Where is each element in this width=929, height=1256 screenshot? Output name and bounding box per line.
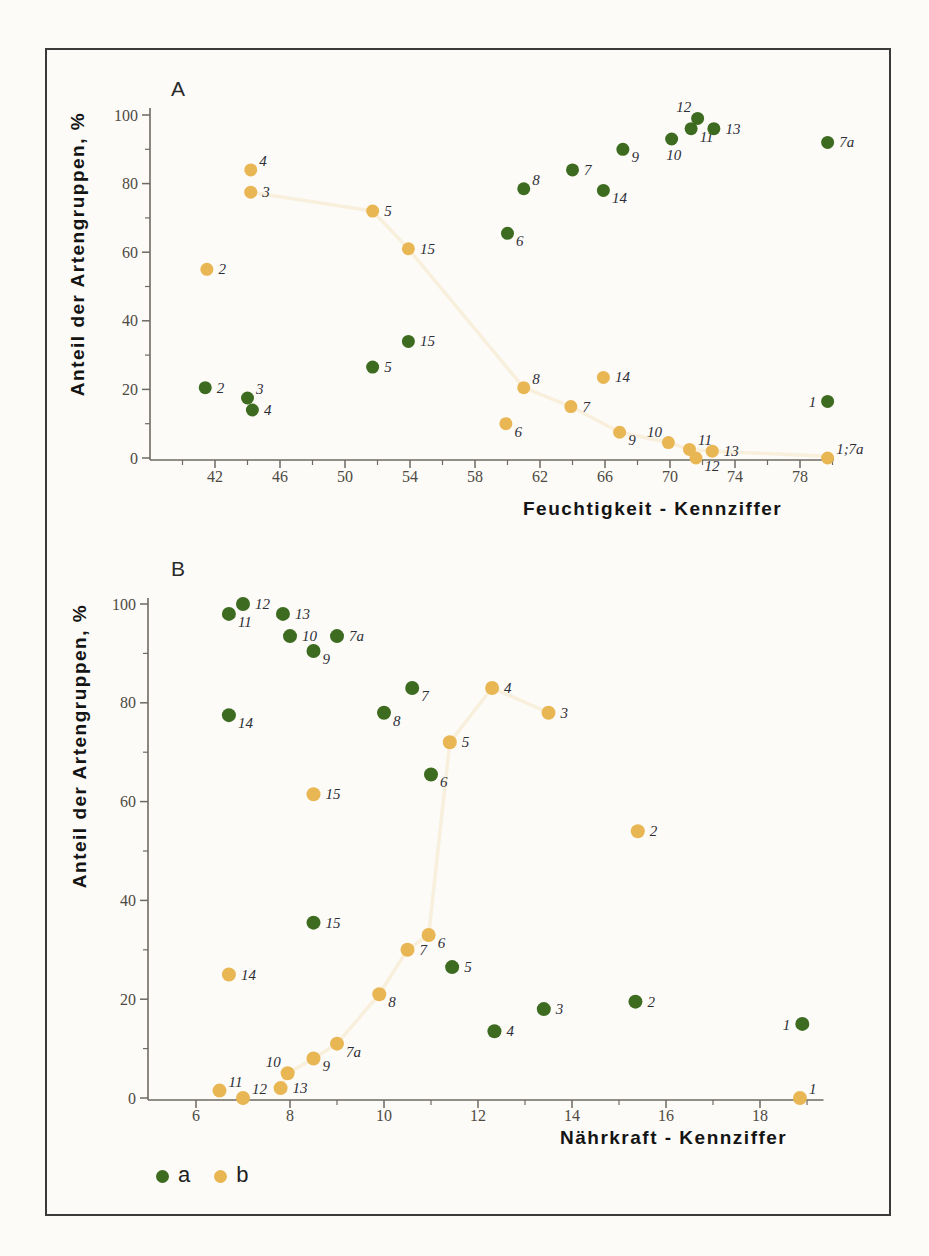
- point-A-b-5: [366, 205, 379, 218]
- point-B-a-4: [487, 1024, 501, 1038]
- point-label-B-b-13: 13: [293, 1080, 308, 1096]
- point-label-A-b-10: 10: [647, 424, 663, 440]
- point-label-A-a-10: 10: [666, 147, 682, 163]
- y-tick-label-B: 20: [120, 991, 136, 1008]
- point-B-a-12: [236, 597, 250, 611]
- point-B-a-6: [424, 767, 438, 781]
- point-A-b-4: [244, 163, 257, 176]
- point-B-a-8: [377, 706, 391, 720]
- x-tick-label-B: 16: [658, 1107, 674, 1124]
- point-B-b-11: [213, 1084, 227, 1098]
- point-A-b-8: [517, 381, 530, 394]
- point-label-A-b-9: 9: [628, 432, 636, 448]
- legend-item-a: a: [156, 1164, 190, 1188]
- y-tick-label-A: 100: [114, 107, 138, 124]
- legend-label-a: a: [178, 1164, 190, 1188]
- point-A-a-9: [616, 143, 629, 156]
- point-label-A-a-6: 6: [516, 233, 524, 249]
- point-label-B-b-7a: 7a: [346, 1044, 361, 1060]
- point-A-b-1;7a: [821, 452, 834, 465]
- point-A-b-3: [244, 186, 257, 199]
- point-label-B-b-7: 7: [420, 942, 429, 958]
- point-A-b-14: [597, 371, 610, 384]
- point-A-a-12: [691, 112, 704, 125]
- point-label-A-a-7: 7: [584, 162, 593, 178]
- point-A-b-13: [706, 445, 719, 458]
- point-A-b-9: [613, 426, 626, 439]
- point-label-B-b-4: 4: [504, 680, 512, 696]
- x-axis-title-b: Nährkraft - Kennziffer: [560, 1127, 787, 1149]
- point-A-b-12: [690, 452, 703, 465]
- point-label-B-a-7a: 7a: [349, 628, 364, 644]
- point-B-b-12: [236, 1091, 250, 1105]
- point-A-a-15: [402, 335, 415, 348]
- point-label-B-a-3: 3: [555, 1001, 564, 1017]
- point-label-A-a-8: 8: [532, 172, 540, 188]
- point-B-b-13: [274, 1081, 288, 1095]
- panel-a-label: A: [171, 77, 186, 101]
- scatter-charts-svg: 4246505458626670747802040608010023451568…: [0, 0, 929, 1256]
- point-B-b-10: [281, 1066, 295, 1080]
- point-label-A-b-15: 15: [420, 241, 436, 257]
- point-B-b-2: [631, 824, 645, 838]
- trend-line-A-b: [251, 192, 828, 456]
- y-tick-label-B: 100: [112, 596, 136, 613]
- point-label-B-b-10: 10: [266, 1054, 282, 1070]
- point-A-a-1: [821, 395, 834, 408]
- x-tick-label-B: 6: [192, 1107, 200, 1124]
- point-label-B-a-5: 5: [464, 959, 472, 975]
- point-A-b-15: [402, 242, 415, 255]
- y-tick-label-A: 80: [122, 175, 138, 192]
- point-label-A-b-5: 5: [384, 203, 392, 219]
- point-label-B-b-14: 14: [241, 967, 257, 983]
- point-label-A-a-9: 9: [631, 149, 639, 165]
- point-label-B-a-10: 10: [302, 628, 318, 644]
- point-label-B-b-8: 8: [388, 994, 396, 1010]
- y-tick-label-A: 40: [122, 312, 138, 329]
- point-A-a-5: [366, 361, 379, 374]
- point-A-a-7: [566, 163, 579, 176]
- point-label-A-b-13: 13: [724, 443, 739, 459]
- point-label-B-a-12: 12: [255, 596, 271, 612]
- point-A-a-8: [517, 182, 530, 195]
- x-tick-label-A: 50: [337, 468, 353, 485]
- point-B-b-15: [307, 787, 321, 801]
- point-label-A-a-3: 3: [255, 381, 264, 397]
- x-tick-label-A: 58: [467, 468, 483, 485]
- panel-b-label: B: [171, 557, 186, 581]
- point-label-B-b-3: 3: [560, 705, 569, 721]
- x-tick-label-B: 18: [752, 1107, 768, 1124]
- x-tick-label-A: 78: [792, 468, 808, 485]
- point-B-a-3: [537, 1002, 551, 1016]
- point-A-a-13: [707, 122, 720, 135]
- point-B-a-15: [307, 916, 321, 930]
- y-tick-label-B: 40: [120, 892, 136, 909]
- x-tick-label-A: 62: [532, 468, 548, 485]
- legend-label-b: b: [236, 1164, 248, 1188]
- x-tick-label-A: 66: [597, 468, 613, 485]
- point-label-A-a-5: 5: [384, 359, 392, 375]
- point-label-B-b-1: 1: [809, 1081, 817, 1097]
- point-label-A-a-1: 1: [809, 394, 817, 410]
- y-tick-label-B: 80: [120, 694, 136, 711]
- point-B-a-13: [276, 607, 290, 621]
- point-label-A-b-4: 4: [259, 153, 267, 169]
- x-axis-title-a: Feuchtigkeit - Kennziffer: [523, 498, 782, 520]
- point-label-B-b-5: 5: [462, 734, 470, 750]
- panel-B: 6810121416180204060801001112131097a14876…: [112, 596, 824, 1125]
- point-label-B-b-11: 11: [229, 1074, 243, 1090]
- y-axis-title-a: Anteil der Artengruppen, %: [67, 104, 97, 404]
- point-A-a-2: [199, 381, 212, 394]
- point-label-A-a-15: 15: [420, 333, 436, 349]
- point-label-B-b-2: 2: [650, 823, 658, 839]
- point-label-A-b-7: 7: [582, 399, 591, 415]
- point-B-b-5: [443, 735, 457, 749]
- point-label-A-a-7a: 7a: [839, 134, 854, 150]
- point-label-B-a-15: 15: [326, 915, 342, 931]
- point-B-a-1: [795, 1017, 809, 1031]
- point-A-b-7: [564, 400, 577, 413]
- x-tick-label-B: 8: [286, 1107, 294, 1124]
- point-label-B-a-8: 8: [393, 713, 401, 729]
- point-label-A-b-1;7a: 1;7a: [836, 441, 864, 457]
- point-label-A-a-13: 13: [725, 121, 740, 137]
